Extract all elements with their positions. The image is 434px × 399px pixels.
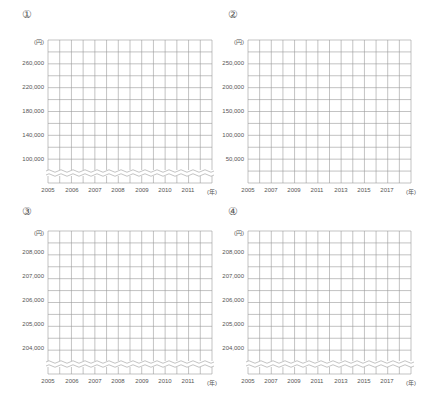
y-tick-label: 204,000 <box>200 345 244 351</box>
x-tick-label: 2009 <box>130 378 154 384</box>
y-tick-label: 200,000 <box>200 84 244 90</box>
y-tick-label: 140,000 <box>0 132 44 138</box>
y-tick-label: 205,000 <box>200 321 244 327</box>
x-tick-label: 2006 <box>60 378 84 384</box>
y-axis-unit: (円) <box>34 37 44 46</box>
x-tick-label: 2011 <box>305 187 329 193</box>
y-tick-label: 207,000 <box>200 273 244 279</box>
x-tick-label: 2005 <box>36 378 60 384</box>
y-tick-label: 207,000 <box>0 273 44 279</box>
x-axis-unit: (年) <box>399 378 423 387</box>
x-tick-label: 2010 <box>153 378 177 384</box>
x-tick-label: 2017 <box>375 187 399 193</box>
y-tick-label: 220,000 <box>0 84 44 90</box>
x-axis-unit: (年) <box>399 187 423 196</box>
y-tick-label: 100,000 <box>0 156 44 162</box>
y-tick-label: 204,000 <box>0 345 44 351</box>
y-axis-unit: (円) <box>34 228 44 237</box>
chart-grid <box>48 40 214 185</box>
x-tick-label: 2009 <box>282 187 306 193</box>
y-tick-label: 206,000 <box>200 297 244 303</box>
y-tick-label: 180,000 <box>0 108 44 114</box>
y-tick-label: 206,000 <box>0 297 44 303</box>
x-tick-label: 2006 <box>60 187 84 193</box>
x-tick-label: 2007 <box>259 378 283 384</box>
x-tick-label: 2008 <box>106 378 130 384</box>
x-tick-label: 2017 <box>375 378 399 384</box>
y-tick-label: 208,000 <box>200 249 244 255</box>
x-tick-label: 2005 <box>36 187 60 193</box>
x-tick-label: 2007 <box>259 187 283 193</box>
x-tick-label: 2005 <box>236 378 260 384</box>
panel-number-label: ① <box>22 8 32 21</box>
chart-grid <box>248 40 413 185</box>
panel-number-label: ③ <box>22 205 32 218</box>
y-tick-label: 50,000 <box>200 156 244 162</box>
y-tick-label: 100,000 <box>200 132 244 138</box>
x-tick-label: 2007 <box>83 187 107 193</box>
y-tick-label: 150,000 <box>200 108 244 114</box>
y-tick-label: 208,000 <box>0 249 44 255</box>
x-tick-label: 2011 <box>176 378 200 384</box>
x-tick-label: 2015 <box>352 187 376 193</box>
x-tick-label: 2005 <box>236 187 260 193</box>
x-tick-label: 2009 <box>282 378 306 384</box>
x-tick-label: 2009 <box>130 187 154 193</box>
y-tick-label: 250,000 <box>200 60 244 66</box>
x-tick-label: 2007 <box>83 378 107 384</box>
x-tick-label: 2015 <box>352 378 376 384</box>
x-axis-unit: (年) <box>200 187 224 196</box>
x-axis-unit: (年) <box>200 378 224 387</box>
x-tick-label: 2011 <box>305 378 329 384</box>
x-tick-label: 2010 <box>153 187 177 193</box>
y-tick-label: 205,000 <box>0 321 44 327</box>
y-axis-unit: (円) <box>234 37 244 46</box>
x-tick-label: 2008 <box>106 187 130 193</box>
chart-grid <box>48 231 214 376</box>
y-axis-unit: (円) <box>234 228 244 237</box>
x-tick-label: 2011 <box>176 187 200 193</box>
panel-number-label: ② <box>228 8 238 21</box>
x-tick-label: 2013 <box>329 378 353 384</box>
x-tick-label: 2013 <box>329 187 353 193</box>
y-tick-label: 260,000 <box>0 60 44 66</box>
chart-grid <box>248 231 413 376</box>
panel-number-label: ④ <box>228 205 238 218</box>
